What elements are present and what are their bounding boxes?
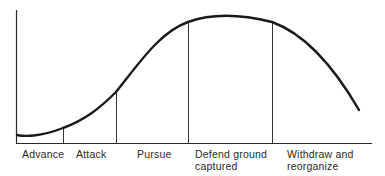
phase-label-advance: Advance (22, 148, 64, 160)
phase-label-defend-line1: Defend ground (195, 148, 267, 160)
phase-label-withdraw-line1: Withdraw and (287, 148, 354, 160)
phase-label-defend-line2: captured (195, 160, 237, 172)
phase-label-pursue: Pursue (137, 148, 171, 160)
phase-label-attack: Attack (76, 148, 106, 160)
phase-label-withdraw-line2: reorganize (287, 160, 339, 172)
